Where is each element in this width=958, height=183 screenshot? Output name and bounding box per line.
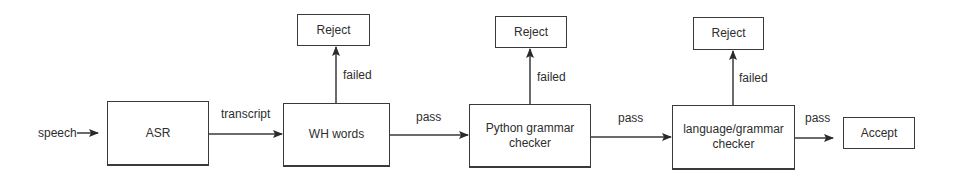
wh-words-label: WH words: [309, 127, 364, 142]
language-label-line1: language/grammar: [683, 122, 784, 137]
python-grammar-checker-box: Python grammar checker: [469, 104, 591, 168]
language-failed-edge-label: failed: [739, 71, 768, 85]
wh-words-box: WH words: [283, 103, 390, 167]
reject-box-3: Reject: [693, 17, 764, 50]
accept-box: Accept: [843, 117, 915, 149]
wh-failed-edge-label: failed: [343, 68, 372, 82]
reject-label-1: Reject: [316, 23, 350, 38]
accept-label: Accept: [861, 126, 898, 141]
language-label-line2: checker: [712, 137, 754, 152]
speech-label: speech: [38, 126, 77, 140]
python-failed-edge-label: failed: [537, 70, 566, 84]
language-pass-edge-label: pass: [805, 111, 830, 125]
reject-box-1: Reject: [297, 14, 370, 46]
reject-label-3: Reject: [711, 26, 745, 41]
reject-label-2: Reject: [514, 25, 548, 40]
language-grammar-checker-box: language/grammar checker: [672, 105, 795, 170]
asr-label: ASR: [146, 126, 171, 141]
transcript-edge-label: transcript: [221, 107, 270, 121]
asr-box: ASR: [107, 101, 209, 166]
python-label-line1: Python grammar: [486, 121, 575, 136]
python-pass-edge-label: pass: [618, 111, 643, 125]
python-label-line2: checker: [509, 136, 551, 151]
reject-box-2: Reject: [495, 16, 567, 48]
wh-pass-edge-label: pass: [416, 110, 441, 124]
